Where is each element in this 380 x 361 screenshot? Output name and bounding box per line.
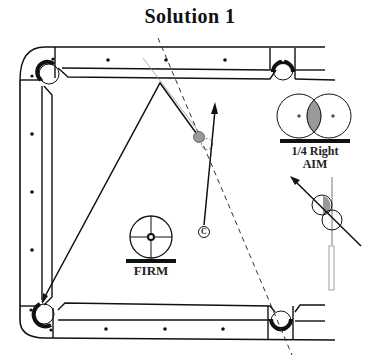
aim-overlap-diagram [277, 94, 351, 143]
aim-label-line2: AIM [280, 158, 350, 171]
stroke-label: FIRM [121, 264, 181, 277]
rail-diamonds [30, 58, 227, 331]
aim-thin-line [143, 58, 205, 140]
cue-ball-marker-label: C [199, 225, 209, 239]
aim-label: 1/4 Right AIM [280, 145, 350, 171]
reference-dashed-line [158, 38, 292, 355]
pocket-top-side [273, 59, 293, 81]
pool-table-diagram [0, 0, 380, 361]
cue-stick-diagram [290, 176, 361, 290]
stroke-reticle-icon [126, 216, 176, 263]
table-outline [20, 47, 335, 340]
pocket-bottom-left [29, 304, 54, 332]
